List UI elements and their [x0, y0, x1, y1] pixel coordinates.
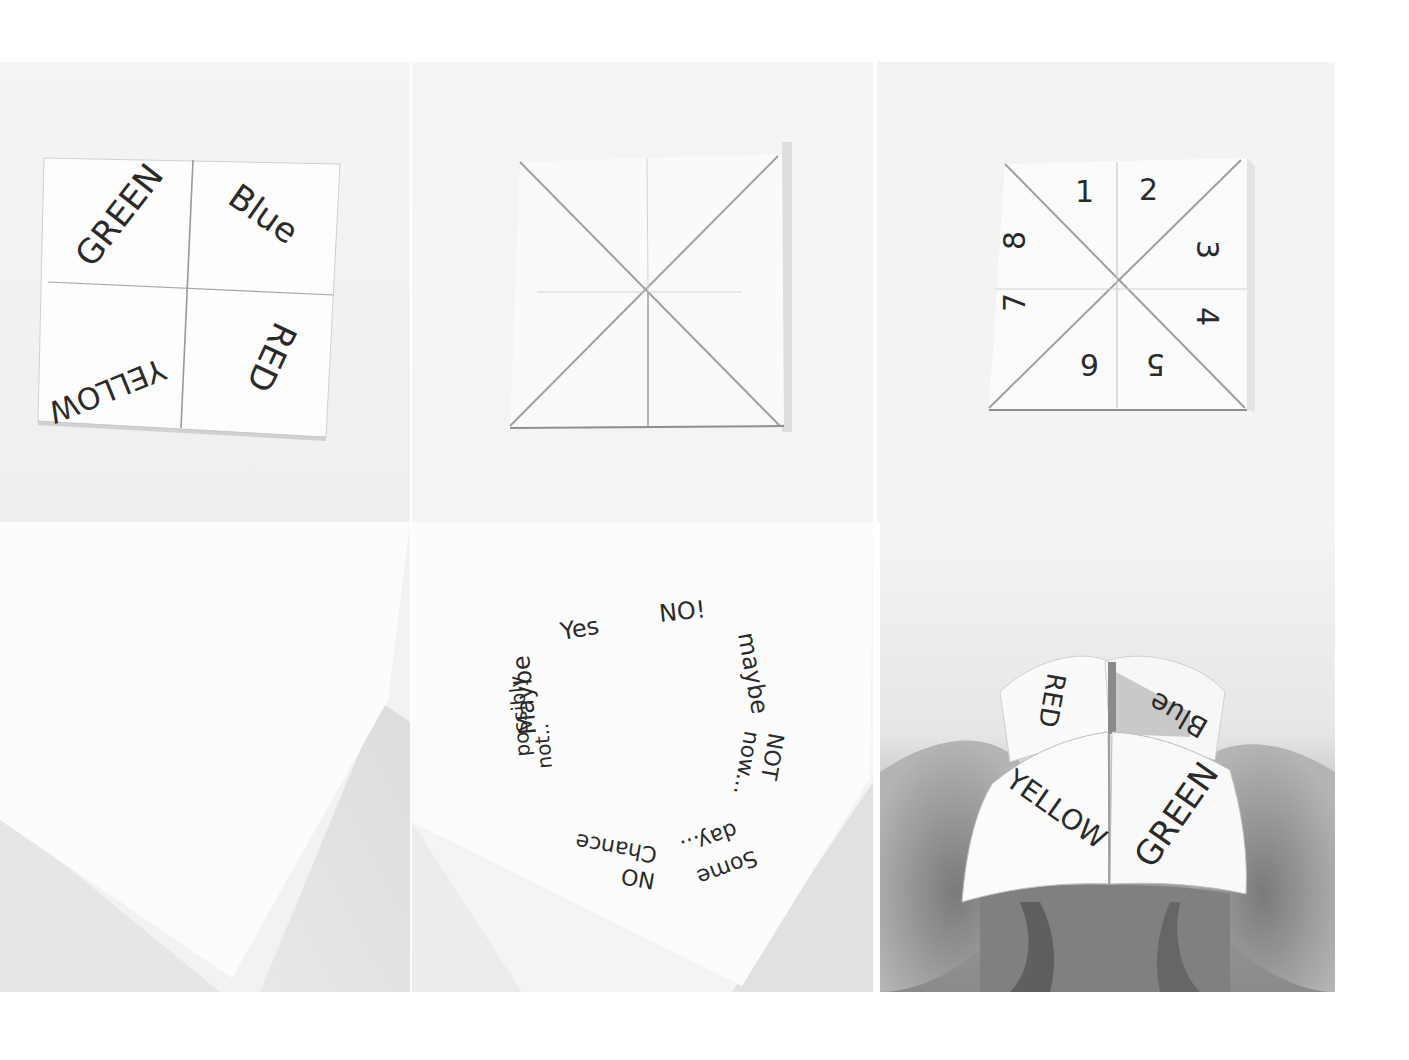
step-5-illustration: Yes NO! maybe NOT now... Some day... NO … — [412, 522, 873, 992]
step-2-illustration — [412, 62, 873, 522]
paper-folded-square — [989, 158, 1247, 410]
step-5-photo: Inner flaps with fortunes written in a c… — [412, 522, 873, 992]
step-6-photo: Finished fortune teller held in fingers — [880, 522, 1335, 992]
flap-number-5: 5 — [1146, 347, 1165, 382]
step-4-photo: Corner of the folded paper, blank — [0, 522, 410, 992]
fortune-no-exclaim: NO! — [658, 595, 707, 628]
flap-number-4: 4 — [1190, 307, 1225, 326]
step-4-illustration — [0, 522, 410, 992]
flap-number-1: 1 — [1075, 174, 1094, 209]
step-3-photo: Triangular flaps numbered 1 to 8 1 2 3 4… — [877, 62, 1335, 522]
flap-number-3: 3 — [1190, 240, 1225, 259]
step-6-illustration: RED Blue YELLOW GREEN — [880, 522, 1335, 992]
step-2-photo: Paper flipped with corners folded to the… — [412, 62, 873, 522]
flap-number-6: 6 — [1080, 347, 1099, 382]
flap-number-2: 2 — [1139, 172, 1158, 207]
flap-number-7: 7 — [997, 293, 1032, 312]
step-1-illustration: GREEN Blue YELLOW RED — [0, 62, 410, 522]
flap-number-8: 8 — [997, 231, 1032, 250]
step-1-photo: Square paper creased into quarters with … — [0, 62, 410, 522]
step-3-illustration: 1 2 3 4 5 6 7 8 — [877, 62, 1335, 522]
